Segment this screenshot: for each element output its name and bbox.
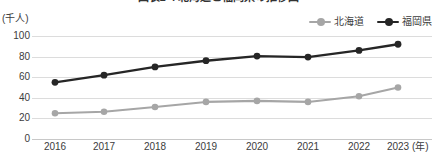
x-tick-2022: 2022 [348, 141, 370, 153]
data-point-hokkaido-2018 [152, 104, 159, 111]
x-tick-2019: 2019 [195, 141, 217, 153]
series-plot [32, 36, 432, 139]
data-point-hokkaido-2017 [101, 108, 108, 115]
data-point-hokkaido-2019 [203, 99, 210, 106]
data-point-hokkaido-2020 [254, 98, 261, 105]
legend-marker-hokkaido-icon [309, 17, 331, 26]
legend-label-hokkaido: 北海道 [334, 16, 364, 27]
chart-title: 図表1-4 北海道と福岡県の推移図 [0, 0, 437, 3]
data-point-hokkaido-2022 [356, 93, 363, 100]
y-tick-100: 100 [2, 31, 30, 41]
legend-item-hokkaido[interactable]: 北海道 [309, 16, 364, 27]
data-point-fukuoka-2023 [395, 41, 402, 48]
legend-item-fukuoka[interactable]: 福岡県 [377, 16, 432, 27]
y-tick-60: 60 [2, 72, 30, 82]
legend-label-fukuoka: 福岡県 [402, 16, 432, 27]
y-tick-40: 40 [2, 93, 30, 103]
y-tick-20: 20 [2, 113, 30, 123]
series-points-fukuoka [52, 41, 402, 86]
series-points-hokkaido [52, 84, 402, 116]
data-point-fukuoka-2020 [254, 53, 261, 60]
x-tick-2020: 2020 [246, 141, 268, 153]
data-point-fukuoka-2017 [101, 72, 108, 79]
data-point-fukuoka-2019 [203, 57, 210, 64]
data-point-fukuoka-2022 [356, 47, 363, 54]
chart-legend: 北海道 福岡県 [309, 16, 432, 27]
plot-area [32, 36, 432, 139]
x-tick-2023: 2023 [387, 141, 409, 153]
x-tick-2017: 2017 [93, 141, 115, 153]
series-line-hokkaido [55, 88, 398, 114]
data-point-hokkaido-2021 [305, 99, 312, 106]
data-point-fukuoka-2018 [152, 64, 159, 71]
data-point-hokkaido-2023 [395, 84, 402, 91]
x-tick-2018: 2018 [144, 141, 166, 153]
x-tick-2016: 2016 [44, 141, 66, 153]
x-axis-tick-labels: 2016 2017 2018 2019 2020 2021 2022 2023 … [0, 140, 437, 157]
y-axis-tick-labels: 100 80 60 40 20 0 [0, 36, 30, 139]
x-tick-2021: 2021 [297, 141, 319, 153]
data-point-fukuoka-2021 [305, 54, 312, 61]
data-point-hokkaido-2016 [52, 110, 59, 117]
y-axis-unit-label: (千人) [2, 13, 29, 24]
y-tick-80: 80 [2, 52, 30, 62]
legend-marker-fukuoka-icon [377, 17, 399, 26]
data-point-fukuoka-2016 [52, 79, 59, 86]
x-axis-unit-label: (年) [412, 141, 429, 153]
chart-title-clipped: 図表1-4 北海道と福岡県の推移図 [0, 0, 437, 3]
line-chart: 図表1-4 北海道と福岡県の推移図 (千人) 北海道 福岡県 100 80 60… [0, 0, 437, 157]
